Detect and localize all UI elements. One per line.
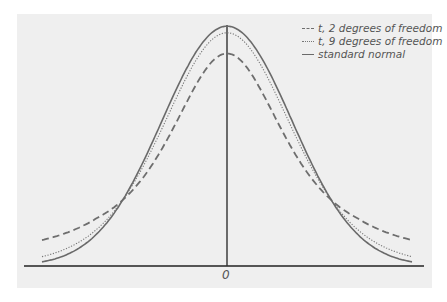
dotted-line-icon [302,41,314,42]
legend-label: t, 2 degrees of freedom [318,22,442,35]
legend-label: standard normal [318,48,405,61]
legend: t, 2 degrees of freedom t, 9 degrees of … [302,22,442,61]
legend-item-t9: t, 9 degrees of freedom [302,35,442,48]
legend-item-t2: t, 2 degrees of freedom [302,22,442,35]
dashed-line-icon [302,28,314,29]
x-tick-zero: 0 [222,268,230,282]
legend-item-normal: standard normal [302,48,442,61]
solid-line-icon [302,54,314,55]
legend-label: t, 9 degrees of freedom [318,35,442,48]
